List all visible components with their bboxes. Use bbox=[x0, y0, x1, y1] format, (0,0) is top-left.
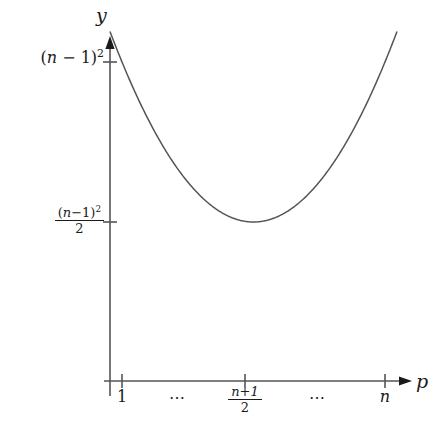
x-tick-label-right: n bbox=[371, 389, 399, 405]
x-tick-label-left: 1 bbox=[108, 389, 136, 405]
y-tick-fraction: (n−1)2 2 bbox=[55, 206, 104, 235]
y-tick-fraction-denominator: 2 bbox=[55, 221, 104, 235]
parabola-curve bbox=[110, 32, 397, 222]
x-axis-ellipsis-left: ⋯ bbox=[148, 390, 208, 406]
x-tick-label-middle: n+1 2 bbox=[218, 385, 272, 414]
x-tick-fraction-numerator: n+1 bbox=[228, 385, 262, 400]
x-axis-label: p bbox=[416, 372, 428, 391]
parabola-figure: y p (n − 1)2 (n−1)2 2 1 ⋯ n+1 2 ⋯ n bbox=[0, 0, 436, 432]
y-tick-label-upper-text: (n − 1)2 bbox=[41, 48, 104, 67]
y-tick-fraction-numerator: (n−1)2 bbox=[55, 206, 104, 221]
y-tick-label-upper: (n − 1)2 bbox=[6, 50, 104, 66]
y-tick-label-middle: (n−1)2 2 bbox=[6, 206, 104, 235]
y-axis-label: y bbox=[96, 6, 107, 25]
x-axis-arrowhead bbox=[399, 376, 412, 385]
x-axis-ellipsis-right: ⋯ bbox=[288, 390, 348, 406]
x-tick-fraction: n+1 2 bbox=[228, 385, 262, 414]
x-tick-fraction-denominator: 2 bbox=[228, 400, 262, 414]
y-axis bbox=[105, 36, 114, 396]
